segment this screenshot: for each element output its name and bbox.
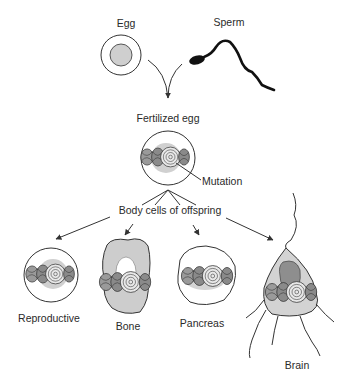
dna-mutation-icon: [181, 266, 232, 287]
egg-to-zygote-line: [148, 60, 168, 98]
fertilized-egg-node: Fertilized egg Mutation: [136, 112, 242, 187]
arrow-to-pancreas: [193, 225, 199, 235]
egg-nucleus: [110, 44, 132, 66]
dna-mutation-icon: [265, 282, 316, 303]
reproductive-node: Reproductive: [18, 248, 80, 324]
pancreas-node: Pancreas: [178, 246, 236, 329]
inheritance-diagram: Egg Sperm Fertilized egg Mutation Body c…: [0, 0, 342, 378]
reproductive-label: Reproductive: [18, 312, 80, 324]
neuron-dendrite-top: [286, 193, 297, 248]
bone-label: Bone: [116, 320, 141, 332]
neuron-dendrite: [246, 300, 264, 318]
sperm-node: Sperm: [188, 16, 274, 90]
fertilized-egg-label: Fertilized egg: [136, 112, 199, 124]
bone-node: Bone: [99, 239, 150, 332]
neuron-dendrite: [300, 316, 320, 356]
sperm-tail: [204, 41, 274, 90]
neuron-dendrite: [316, 304, 334, 322]
dna-mutation-icon: [141, 147, 190, 167]
sperm-to-zygote-arrow: [168, 64, 182, 98]
neuron-dendrite: [249, 310, 266, 358]
arrow-to-brain: [226, 218, 273, 240]
mutation-label: Mutation: [202, 175, 242, 187]
brain-label: Brain: [285, 359, 310, 371]
sperm-label: Sperm: [214, 16, 245, 28]
neuron-dendrite: [272, 316, 278, 345]
sperm-head: [188, 54, 206, 67]
body-cells-label: Body cells of offspring: [119, 204, 222, 216]
egg-label: Egg: [117, 17, 136, 29]
arrow-to-bone: [125, 224, 133, 235]
egg-node: Egg: [101, 17, 141, 75]
dna-mutation-icon: [26, 264, 75, 284]
arrow-to-reproductive: [56, 217, 110, 239]
brain-node: Brain: [246, 193, 334, 371]
branch-lines: [142, 190, 196, 205]
pancreas-label: Pancreas: [180, 317, 224, 329]
dna-mutation-icon: [99, 272, 150, 293]
